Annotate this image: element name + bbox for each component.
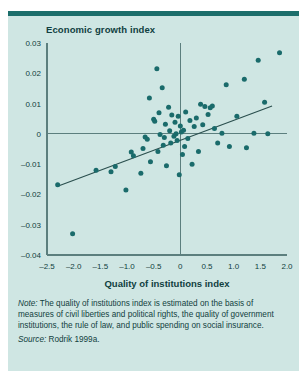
data-point: [210, 103, 215, 108]
figure-caption: Note: The quality of institutions index …: [18, 298, 290, 345]
data-point: [138, 171, 143, 176]
data-point: [200, 122, 205, 127]
note-paragraph: Note: The quality of institutions index …: [18, 298, 290, 332]
y-tick-label: –0.04: [21, 251, 42, 260]
data-point: [175, 138, 180, 143]
data-point: [168, 140, 173, 145]
data-point: [194, 116, 199, 121]
data-point: [163, 122, 168, 127]
data-point: [183, 110, 188, 115]
data-point: [181, 128, 186, 133]
data-point: [158, 132, 163, 137]
x-tick-label: 0.5: [201, 262, 213, 271]
source-label: Source:: [18, 335, 46, 344]
data-point: [234, 114, 239, 119]
x-axis-title: Quality of institutions index: [104, 278, 230, 289]
y-tick-label: 0.01: [25, 100, 41, 109]
data-points: [55, 50, 282, 236]
data-point: [123, 187, 128, 192]
data-point: [215, 140, 220, 145]
data-point: [55, 182, 60, 187]
data-point: [192, 124, 197, 129]
data-point: [244, 145, 249, 150]
y-tick-label: –0.01: [21, 160, 42, 169]
data-point: [167, 128, 172, 133]
x-tick-label: 1.0: [228, 262, 240, 271]
y-tick-label: 0.02: [25, 69, 41, 78]
y-axis-tick-labels: 0.030.020.010–0.01–0.02–0.03–0.04: [21, 39, 42, 260]
data-point: [147, 96, 152, 101]
data-point: [109, 169, 114, 174]
scatter-plot: 0.030.020.010–0.01–0.02–0.03–0.04 –2.5–2…: [8, 11, 299, 301]
data-point: [256, 58, 261, 63]
source-text: Rodrik 1999a.: [46, 335, 99, 344]
figure-panel: Economic growth index 0.030.020.010–0.01…: [8, 11, 299, 371]
data-point: [180, 152, 185, 157]
data-point: [70, 231, 75, 236]
data-point: [161, 143, 166, 148]
data-point: [160, 85, 165, 90]
data-point: [224, 82, 229, 87]
data-point: [155, 149, 160, 154]
x-tick-label: 0: [178, 262, 183, 271]
y-tick-label: 0: [37, 130, 42, 139]
data-point: [164, 163, 169, 168]
x-tick-label: –2.5: [39, 262, 55, 271]
data-point: [206, 112, 211, 117]
data-point: [176, 114, 181, 119]
data-point: [154, 66, 159, 71]
data-point: [185, 136, 190, 141]
data-point: [262, 100, 267, 105]
data-point: [166, 105, 171, 110]
data-point: [196, 149, 201, 154]
scatter-plot-svg: 0.030.020.010–0.01–0.02–0.03–0.04 –2.5–2…: [8, 11, 299, 301]
data-point: [148, 159, 153, 164]
x-axis-tick-labels: –2.5–2.0–1.5–1.0–0.500.51.01.52.0: [39, 262, 293, 271]
data-point: [242, 77, 247, 82]
y-tick-label: –0.03: [21, 221, 42, 230]
data-point: [177, 172, 182, 177]
zero-reference-lines: [47, 43, 287, 255]
x-tick-label: –1.0: [119, 262, 135, 271]
note-label: Note:: [18, 299, 38, 308]
data-point: [265, 131, 270, 136]
y-tick-label: –0.02: [21, 190, 42, 199]
data-point: [157, 110, 162, 115]
data-point: [212, 126, 217, 131]
data-point: [162, 135, 167, 140]
axis-lines: [47, 43, 287, 255]
x-tick-label: –2.0: [66, 262, 82, 271]
data-point: [251, 131, 256, 136]
y-tick-label: 0.03: [25, 39, 41, 48]
data-point: [219, 131, 224, 136]
data-point: [198, 102, 203, 107]
data-point: [190, 162, 195, 167]
data-point: [94, 168, 99, 173]
data-point: [169, 113, 174, 118]
data-point: [178, 123, 183, 128]
data-point: [113, 164, 118, 169]
data-point: [187, 118, 192, 123]
data-point: [152, 119, 157, 124]
x-tick-label: 2.0: [281, 262, 293, 271]
data-point: [202, 104, 207, 109]
source-paragraph: Source: Rodrik 1999a.: [18, 334, 290, 345]
data-point: [182, 144, 187, 149]
data-point: [145, 137, 150, 142]
data-point: [173, 120, 178, 125]
data-point: [227, 144, 232, 149]
x-tick-label: –1.5: [93, 262, 109, 271]
data-point: [131, 153, 136, 158]
x-tick-label: 1.5: [255, 262, 267, 271]
x-tick-label: –0.5: [146, 262, 162, 271]
data-point: [277, 50, 282, 55]
note-text: The quality of institutions index is est…: [18, 299, 274, 330]
data-point: [141, 146, 146, 151]
data-point: [174, 131, 179, 136]
